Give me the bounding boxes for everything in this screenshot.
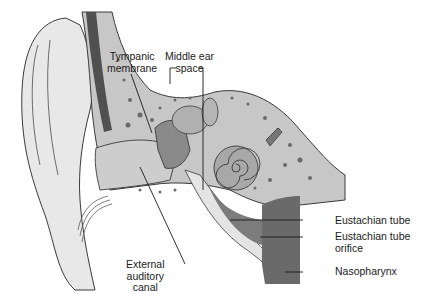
label-nasopharynx: Nasopharynx (335, 266, 397, 278)
label-external-auditory-canal: External auditory canal (126, 259, 165, 294)
nasopharynx-region (262, 196, 300, 284)
label-middle-ear-space: Middle ear space (165, 51, 214, 74)
label-eustachian-tube: Eustachian tube (335, 215, 410, 227)
label-line: space (165, 63, 214, 75)
label-line: orifice (335, 243, 410, 255)
label-line: Tympanic (107, 51, 157, 63)
auricle (22, 18, 95, 290)
label-line: membrane (107, 63, 157, 75)
label-eustachian-tube-orifice: Eustachian tube orifice (335, 231, 410, 254)
label-line: Eustachian tube (335, 231, 410, 243)
label-line: External (126, 259, 165, 271)
label-tympanic-membrane: Tympanic membrane (107, 51, 157, 74)
label-line: Middle ear (165, 51, 214, 63)
canal-hair (78, 196, 112, 242)
label-line: canal (126, 282, 165, 294)
